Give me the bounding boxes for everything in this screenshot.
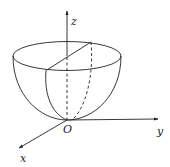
y-axis-label: y bbox=[156, 125, 164, 138]
origin-label: O bbox=[63, 123, 72, 136]
front-meridian bbox=[46, 71, 67, 121]
x-axis-label: x bbox=[20, 152, 27, 165]
back-meridian-hidden bbox=[72, 42, 92, 120]
rim-diameter bbox=[46, 42, 91, 71]
hemisphere-diagram: z y x O bbox=[0, 0, 170, 167]
diagram-canvas: z y x O bbox=[0, 0, 170, 167]
x-axis bbox=[19, 120, 67, 148]
hemisphere-outline bbox=[13, 56, 121, 120]
y-axis bbox=[67, 119, 158, 120]
z-axis-label: z bbox=[70, 15, 77, 28]
